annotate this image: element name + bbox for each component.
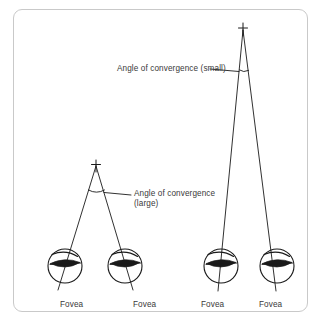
eye-near-left	[48, 249, 82, 283]
figure-root: Angle of convergence (small) Angle of co…	[0, 0, 323, 330]
fovea-label-near-left: Fovea	[60, 300, 83, 310]
near-left-visual-axis	[58, 166, 96, 290]
far-angle-arc	[240, 70, 249, 72]
angle-of-convergence-small-label: Angle of convergence (small)	[117, 64, 226, 74]
near-angle-arc	[89, 190, 105, 192]
eye-near-right	[108, 249, 142, 283]
near-right-visual-axis	[96, 166, 133, 290]
fovea-label-far-left: Fovea	[201, 300, 224, 310]
eye-far-left	[204, 249, 238, 283]
eye-far-right	[260, 249, 294, 283]
far-right-visual-axis	[243, 30, 276, 291]
angle-large-line-2: (large)	[134, 199, 215, 209]
fovea-label-near-right: Fovea	[133, 300, 156, 310]
near-angle-leader	[104, 193, 131, 196]
fovea-label-far-right: Fovea	[259, 300, 282, 310]
angle-large-line-1: Angle of convergence	[134, 189, 215, 198]
convergence-diagram	[0, 0, 323, 330]
angle-of-convergence-large-label: Angle of convergence (large)	[134, 189, 215, 209]
